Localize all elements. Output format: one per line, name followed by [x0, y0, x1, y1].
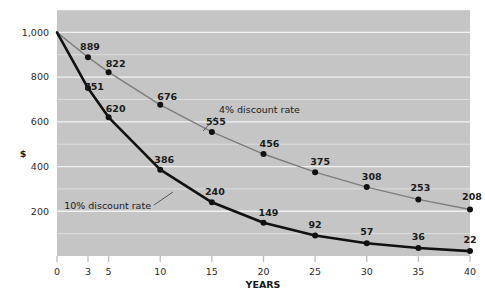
data-point-label: 92 — [309, 219, 322, 230]
data-point-marker — [157, 167, 163, 173]
data-point-label: 456 — [260, 138, 280, 149]
data-point-marker — [106, 69, 112, 75]
y-tick-label: 400 — [31, 161, 49, 172]
x-tick-label: 10 — [154, 266, 166, 277]
data-point-marker — [364, 184, 370, 190]
data-point-label: 620 — [106, 103, 126, 114]
data-point-label: 36 — [412, 231, 426, 242]
data-point-marker — [364, 240, 370, 246]
x-tick-label: 5 — [106, 266, 112, 277]
y-tick-label: 600 — [31, 116, 49, 127]
data-point-label: 889 — [80, 41, 100, 52]
y-axis-title: $ — [20, 148, 27, 159]
annotation-10-percent-discount-rate: 10% discount rate — [64, 200, 151, 211]
x-tick-label: 30 — [361, 266, 373, 277]
x-axis-tick-labels: 03510152025303540 — [54, 266, 476, 277]
data-point-marker — [209, 129, 215, 135]
data-point-marker — [467, 206, 473, 212]
data-point-marker — [209, 199, 215, 205]
x-axis-tick-marks — [57, 256, 470, 262]
data-point-label: 822 — [106, 58, 126, 69]
data-point-label: 240 — [205, 186, 225, 197]
x-axis-title: YEARS — [245, 279, 281, 290]
x-tick-label: 20 — [257, 266, 269, 277]
data-point-label: 253 — [410, 182, 430, 193]
data-point-label: 149 — [259, 207, 279, 218]
x-tick-label: 40 — [464, 266, 476, 277]
y-axis-tick-labels: 2004006008001,000 — [22, 27, 49, 217]
data-point-label: 676 — [157, 91, 177, 102]
annotation-4-percent-discount-rate: 4% discount rate — [219, 104, 300, 115]
data-point-marker — [467, 248, 473, 254]
data-point-marker — [106, 114, 112, 120]
x-tick-label: 25 — [309, 266, 321, 277]
data-point-marker — [85, 54, 91, 60]
data-point-label: 22 — [463, 234, 476, 245]
data-point-label: 751 — [84, 81, 104, 92]
y-tick-label: 200 — [31, 206, 49, 217]
plot-area-background — [57, 10, 470, 256]
x-tick-label: 35 — [412, 266, 424, 277]
data-point-label: 308 — [362, 171, 382, 182]
data-point-marker — [312, 169, 318, 175]
data-point-marker — [312, 232, 318, 238]
data-point-marker — [261, 151, 267, 157]
data-point-marker — [415, 196, 421, 202]
data-point-marker — [261, 220, 267, 226]
discount-rate-chart: 2004006008001,000 03510152025303540 8898… — [0, 0, 485, 299]
y-tick-label: 1,000 — [22, 27, 49, 38]
chart-canvas: 2004006008001,000 03510152025303540 8898… — [0, 0, 485, 299]
y-tick-label: 800 — [31, 71, 49, 82]
x-tick-label: 0 — [54, 266, 60, 277]
data-point-marker — [415, 245, 421, 251]
data-point-label: 386 — [154, 154, 174, 165]
x-tick-label: 15 — [206, 266, 218, 277]
data-point-label: 208 — [462, 191, 482, 202]
data-point-marker — [157, 102, 163, 108]
data-point-label: 375 — [310, 156, 330, 167]
x-tick-label: 3 — [85, 266, 91, 277]
data-point-label: 57 — [360, 226, 373, 237]
